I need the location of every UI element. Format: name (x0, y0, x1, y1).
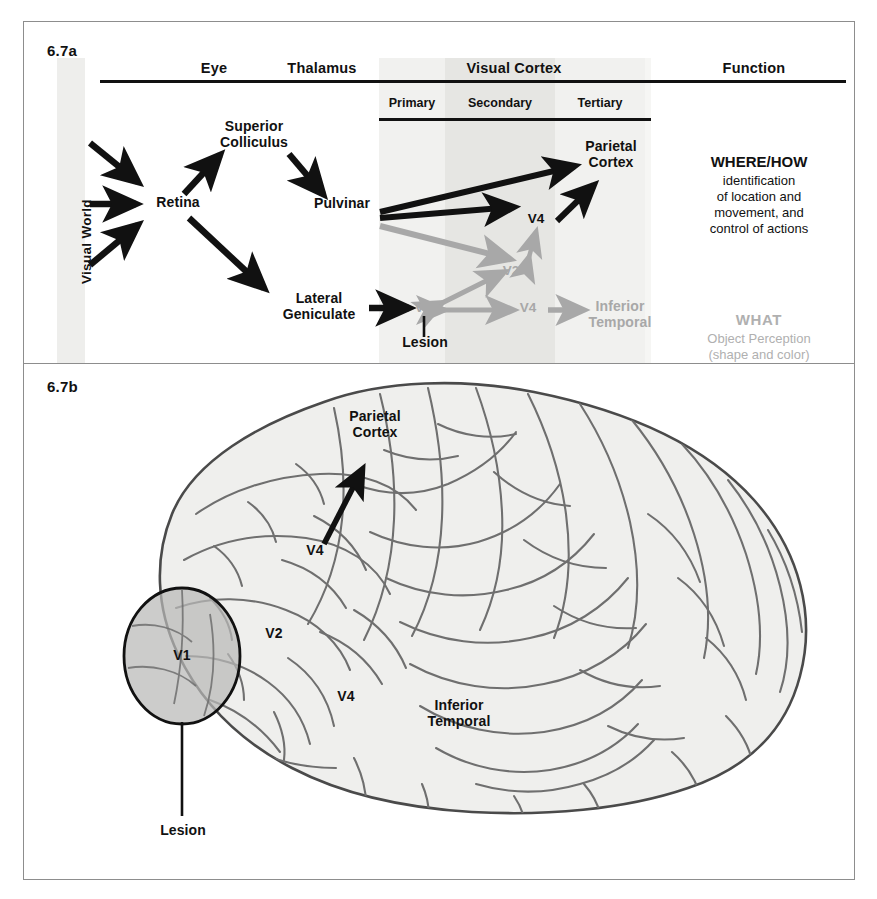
brain-label-inferior-temporal: Inferior Temporal (407, 697, 511, 729)
node-v4-dorsal: V4 (519, 211, 553, 226)
arrow-pulvinar-to-v2 (380, 226, 510, 259)
arrow-v4-dorsal-to-parietal (557, 185, 594, 221)
panel-a-diagram: 6.7a Eye Thalamus Visual Cortex Function… (24, 22, 856, 363)
function-what: WHATObject Perception (shape and color) (669, 295, 849, 363)
brain-outline (160, 383, 806, 813)
node-lesion: Lesion (392, 335, 458, 351)
node-v1: V1 (406, 300, 440, 315)
node-v4-ventral: V4 (511, 300, 545, 315)
node-parietal-cortex: Parietal Cortex (569, 139, 653, 170)
node-retina: Retina (141, 195, 215, 211)
arrow-pulvinar-to-parietal (380, 166, 575, 212)
brain-label-v1: V1 (165, 647, 199, 663)
node-pulvinar: Pulvinar (302, 196, 382, 212)
brain-label-parietal-cortex: Parietal Cortex (327, 408, 423, 440)
panel-b-brain: 6.7b (24, 364, 856, 881)
arrow-retina-to-superior-colliculus (184, 155, 220, 194)
node-v2: V2 (494, 263, 528, 278)
brain-label-lesion: Lesion (148, 822, 218, 838)
brain-illustration (24, 364, 856, 881)
function-what-heading: WHAT (669, 311, 849, 330)
function-where-how: WHERE/HOWidentification of location and … (669, 137, 849, 237)
arrow-v2-v4-dorsal-bidirectional (529, 232, 536, 257)
node-superior-colliculus: Superior Colliculus (199, 119, 309, 150)
brain-label-v4-ventral: V4 (329, 688, 363, 704)
function-where-how-heading: WHERE/HOW (669, 153, 849, 172)
arrow-retina-to-lateral-geniculate (189, 218, 264, 288)
node-lateral-geniculate: Lateral Geniculate (267, 291, 371, 322)
function-what-body: Object Perception (shape and color) (707, 331, 810, 362)
brain-label-v4-dorsal: V4 (298, 542, 332, 558)
arrow-world-to-retina (90, 143, 138, 265)
brain-label-v2: V2 (257, 625, 291, 641)
arrow-superior-colliculus-to-pulvinar (289, 154, 323, 194)
figure-frame: 6.7a Eye Thalamus Visual Cortex Function… (23, 21, 855, 880)
node-inferior-temporal: Inferior Temporal (575, 299, 665, 330)
function-where-how-body: identification of location and movement,… (710, 173, 808, 236)
